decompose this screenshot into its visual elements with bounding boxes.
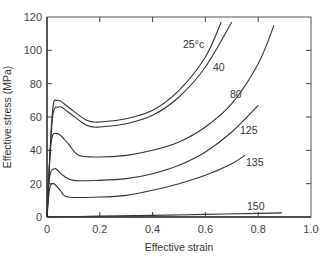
curve-labels: 25°c4080125135150 xyxy=(183,38,265,212)
y-tick-label: 80 xyxy=(30,78,42,90)
x-tick-label: 0.6 xyxy=(198,223,213,235)
curve-125 xyxy=(47,105,258,217)
y-tick-label: 40 xyxy=(30,144,42,156)
y-tick-label: 20 xyxy=(30,178,42,190)
x-tick-label: 0.8 xyxy=(251,223,266,235)
curve-40 xyxy=(47,22,232,217)
x-tick-label: 0 xyxy=(44,223,50,235)
x-axis-title: Effective strain xyxy=(145,241,214,253)
y-axis-title: Effective stress (MPa) xyxy=(1,66,13,169)
plot-frame xyxy=(47,17,311,217)
plot-border xyxy=(47,17,311,217)
x-tick-label: 0.2 xyxy=(92,223,107,235)
x-tick-label: 1.0 xyxy=(303,223,318,235)
curve-25c xyxy=(47,22,221,217)
curve-label: 40 xyxy=(213,61,225,73)
y-tick-label: 60 xyxy=(30,111,42,123)
axis-ticks: 00.20.40.60.81.0020406080100120 xyxy=(24,11,319,235)
curves xyxy=(47,22,282,217)
x-tick-label: 0.4 xyxy=(145,223,160,235)
y-tick-label: 100 xyxy=(24,44,42,56)
stress-strain-chart: 00.20.40.60.81.0020406080100120 25°c4080… xyxy=(0,0,330,260)
curve-label: 80 xyxy=(230,88,242,100)
curve-label: 135 xyxy=(246,156,264,168)
curve-label: 125 xyxy=(240,124,258,136)
y-tick-label: 120 xyxy=(24,11,42,23)
curve-label: 25°c xyxy=(183,38,204,50)
curve-label: 150 xyxy=(247,200,265,212)
y-tick-label: 0 xyxy=(36,211,42,223)
curve-135 xyxy=(47,155,245,217)
